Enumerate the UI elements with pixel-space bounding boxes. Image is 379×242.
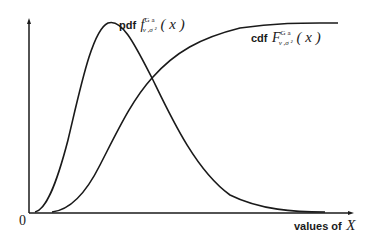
cdf-curve: [52, 23, 338, 212]
x-axis-arrow-icon: [348, 211, 354, 215]
cdf-superscript: Ga: [281, 29, 293, 37]
pdf-curve: [35, 22, 325, 212]
x-axis-variable: X: [346, 217, 355, 233]
cdf-subscript: v ,σ ²: [279, 39, 293, 47]
pdf-subscript: v ,σ ²: [143, 26, 157, 34]
chart-plot: [0, 0, 379, 242]
pdf-superscript: Ga: [144, 16, 156, 24]
x-axis-label: values of X: [294, 216, 355, 234]
pdf-arg: ( x ): [161, 16, 185, 32]
y-axis-arrow-icon: [27, 18, 31, 24]
origin-label: 0: [19, 213, 26, 229]
pdf-prefix: pdf: [119, 19, 136, 31]
x-axis-text: values of: [294, 220, 342, 232]
cdf-arg: ( x ): [297, 29, 321, 45]
cdf-prefix: cdf: [251, 32, 268, 44]
cdf-label: cdf FGav ,σ ²( x ): [251, 28, 321, 46]
pdf-label: pdf fGav ,σ ²( x ): [119, 15, 185, 33]
